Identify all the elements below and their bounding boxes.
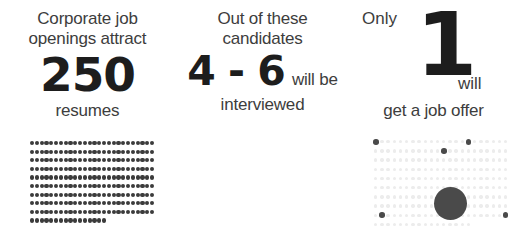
- dot: [150, 184, 154, 188]
- dot: [126, 167, 130, 171]
- dot: [54, 218, 58, 222]
- dot: [92, 141, 96, 145]
- dot: [150, 141, 154, 145]
- dot: [44, 218, 48, 222]
- dot: [97, 210, 101, 214]
- dot: [88, 158, 92, 162]
- dot: [35, 193, 39, 197]
- dot: [73, 210, 77, 214]
- dot: [112, 141, 116, 145]
- dot: [44, 150, 48, 154]
- dot: [126, 201, 130, 205]
- dot: [68, 141, 72, 145]
- dot: [78, 218, 82, 222]
- dot: [40, 201, 44, 205]
- dot: [112, 158, 116, 162]
- dot: [131, 175, 135, 179]
- dot: [97, 193, 101, 197]
- dot: [73, 193, 77, 197]
- dot: [140, 184, 144, 188]
- dot: [73, 150, 77, 154]
- dot: [88, 193, 92, 197]
- dot: [54, 201, 58, 205]
- dot: [73, 167, 77, 171]
- dot: [49, 150, 53, 154]
- dot: [145, 167, 149, 171]
- dot: [44, 210, 48, 214]
- dot: [140, 201, 144, 205]
- dot: [59, 201, 63, 205]
- dot: [121, 150, 125, 154]
- dot: [35, 167, 39, 171]
- dot: [102, 184, 106, 188]
- dot: [116, 201, 120, 205]
- dot: [88, 184, 92, 188]
- dot: [126, 150, 130, 154]
- dot: [136, 167, 140, 171]
- dot: [35, 210, 39, 214]
- dot: [126, 184, 130, 188]
- dot: [73, 201, 77, 205]
- dot: [49, 210, 53, 214]
- dot: [35, 141, 39, 145]
- dot: [121, 201, 125, 205]
- dot: [145, 184, 149, 188]
- dot: [73, 141, 77, 145]
- dot: [40, 218, 44, 222]
- dot: [54, 210, 58, 214]
- dot: [140, 158, 144, 162]
- dot: [59, 210, 63, 214]
- dot: [107, 201, 111, 205]
- dot: [107, 184, 111, 188]
- dot: [116, 167, 120, 171]
- panel-job-offer-lede: Only: [362, 9, 397, 29]
- dot: [54, 141, 58, 145]
- panel-job-offer: Only 1 will get a job offer: [350, 0, 517, 235]
- dot: [116, 150, 120, 154]
- dot: [73, 175, 77, 179]
- panel-resumes: Corporate job openings attract 250 resum…: [0, 0, 175, 235]
- dot: [102, 201, 106, 205]
- dot: [145, 175, 149, 179]
- panel-interviewed-big-number: 4 - 6: [187, 51, 285, 92]
- dot: [112, 184, 116, 188]
- dot: [126, 210, 130, 214]
- dot: [78, 141, 82, 145]
- dot: [140, 167, 144, 171]
- dot: [44, 175, 48, 179]
- dot: [116, 184, 120, 188]
- dot: [140, 210, 144, 214]
- dot: [30, 158, 34, 162]
- dot: [40, 193, 44, 197]
- panel-interviewed-lede: Out of these candidates: [183, 9, 342, 49]
- dot: [64, 210, 68, 214]
- dot: [68, 175, 72, 179]
- dot: [64, 218, 68, 222]
- dot: [44, 201, 48, 205]
- dot: [68, 150, 72, 154]
- dot: [145, 141, 149, 145]
- dot: [145, 158, 149, 162]
- dot: [30, 201, 34, 205]
- dot: [30, 167, 34, 171]
- dot: [83, 167, 87, 171]
- dot: [102, 210, 106, 214]
- dot: [30, 141, 34, 145]
- dot: [136, 193, 140, 197]
- dot: [49, 184, 53, 188]
- dot: [107, 175, 111, 179]
- dot: [64, 167, 68, 171]
- panel-job-offer-tail: will: [458, 74, 482, 94]
- dot: [49, 175, 53, 179]
- dot: [121, 175, 125, 179]
- dot: [54, 184, 58, 188]
- dot: [54, 150, 58, 154]
- dot: [30, 150, 34, 154]
- dot: [97, 184, 101, 188]
- dot: [92, 167, 96, 171]
- dot: [64, 175, 68, 179]
- dot: [83, 210, 87, 214]
- dot: [145, 193, 149, 197]
- dot: [68, 210, 72, 214]
- dot: [44, 158, 48, 162]
